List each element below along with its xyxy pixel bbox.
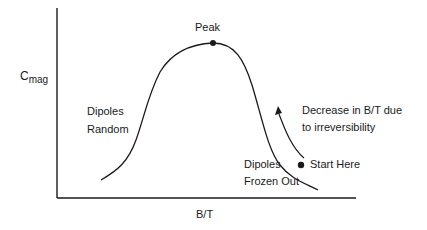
x-axis-label: B/T [196, 207, 213, 221]
arrow-head-icon [275, 106, 282, 115]
peak-point [210, 40, 216, 46]
dipoles-frozen-label-line2: Frozen Out [244, 174, 299, 188]
dipoles-frozen-label-line1: Dipoles [244, 157, 281, 171]
decrease-label-line2: to irreversibility [302, 120, 375, 134]
start-here-label: Start Here [310, 157, 360, 171]
decrease-label-line1: Decrease in B/T due [302, 103, 402, 117]
y-axis-label: Cmag [20, 69, 48, 87]
y-axis-label-main: C [20, 69, 29, 83]
c-mag-curve [101, 43, 318, 190]
peak-label: Peak [195, 20, 220, 34]
dipoles-random-label-line2: Random [87, 122, 129, 136]
dipoles-random-label-line1: Dipoles [87, 104, 124, 118]
irreversibility-arrow [279, 114, 304, 158]
start-point [298, 162, 304, 168]
y-axis-label-subscript: mag [29, 74, 48, 85]
